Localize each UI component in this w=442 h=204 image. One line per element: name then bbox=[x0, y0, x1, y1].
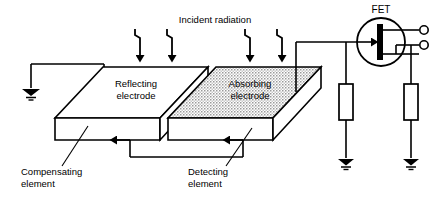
compensating-element-label-line1: Compensating bbox=[21, 166, 82, 178]
fet-label: FET bbox=[356, 4, 406, 16]
output-terminal-top bbox=[420, 26, 428, 34]
resistor-right-ground-icon bbox=[403, 159, 419, 170]
radiation-arrow-2 bbox=[167, 29, 172, 56]
absorbing-electrode-label-line2: electrode bbox=[218, 90, 282, 102]
reflecting-electrode-label-line1: Reflecting bbox=[104, 78, 168, 90]
absorbing-electrode-label-line1: Absorbing bbox=[218, 78, 282, 90]
radiation-arrow-3 bbox=[245, 29, 250, 56]
detecting-element-label-line1: Detecting bbox=[188, 166, 228, 178]
left-ground-icon bbox=[22, 89, 40, 100]
incident-radiation-label: Incident radiation bbox=[160, 14, 270, 26]
radiation-arrow-1 bbox=[135, 29, 140, 56]
resistor-left bbox=[339, 42, 353, 158]
compensating-element-label-line2: element bbox=[21, 178, 55, 190]
reflecting-electrode-label-line2: electrode bbox=[104, 90, 168, 102]
radiation-arrow-4 bbox=[277, 29, 282, 56]
bottom-interconnect-wire bbox=[130, 140, 243, 157]
resistor-left-ground-icon bbox=[338, 159, 354, 170]
resistor-right bbox=[404, 45, 418, 158]
output-terminal-bottom bbox=[420, 41, 428, 49]
detecting-element-label-line2: element bbox=[188, 178, 222, 190]
figure-canvas: Incident radiation Reflecting electrode … bbox=[0, 0, 442, 204]
fet-symbol bbox=[357, 18, 405, 66]
